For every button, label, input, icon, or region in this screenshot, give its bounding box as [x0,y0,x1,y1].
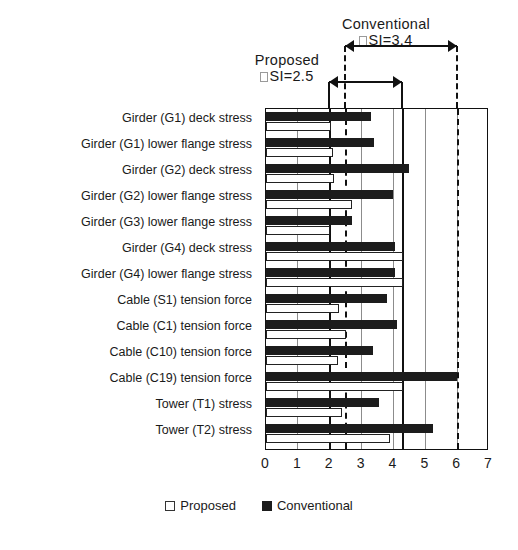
bar-row [266,111,487,137]
bar-proposed [266,148,333,157]
bar-proposed [266,330,346,339]
span-arrow-conventional-line [345,45,457,47]
plot-area [265,108,488,450]
arrow-head-left-icon [329,76,338,88]
x-axis-tick-label: 5 [414,455,434,471]
y-axis-label: Cable (C1) tension force [117,320,252,333]
bar-conventional [266,190,393,199]
annotation-conventional-title: Conventional [330,16,442,32]
bar-conventional [266,294,387,303]
bar-conventional [266,112,371,121]
bar-row [266,345,487,371]
x-axis-tick-label: 0 [255,455,275,471]
bar-conventional [266,164,409,173]
y-axis-label: Tower (T2) stress [155,424,252,437]
bar-row [266,267,487,293]
legend-label: Conventional [277,498,353,513]
annotation-proposed-title: Proposed [244,52,330,68]
y-axis-label: Girder (G4) deck stress [122,242,252,255]
y-axis-label: Girder (G4) lower flange stress [81,268,252,281]
y-axis-labels: Girder (G1) deck stress Girder (G1) lowe… [0,108,258,450]
x-axis-tick-label: 7 [478,455,498,471]
bar-proposed [266,356,338,365]
bar-conventional [266,346,373,355]
arrow-head-right-icon [448,40,457,52]
chart-legend: Proposed Conventional [0,498,518,513]
bar-proposed [266,122,331,131]
legend-label: Proposed [180,498,236,513]
bar-conventional [266,216,352,225]
span-arrow-conventional [345,40,457,52]
span-arrow-proposed [329,76,402,88]
x-axis-tick-label: 4 [382,455,402,471]
bar-row [266,371,487,397]
annotation-proposed-value-text: SI=2.5 [269,68,313,84]
bar-row [266,423,487,449]
bar-proposed [266,434,390,443]
bar-proposed [266,382,403,391]
bar-row [266,215,487,241]
y-axis-label: Cable (C19) tension force [110,372,252,385]
span-arrow-proposed-line [329,81,402,83]
bar-proposed [266,408,342,417]
bar-rows [266,109,487,449]
bar-row [266,397,487,423]
missing-glyph-icon [260,72,268,82]
legend-swatch-open-square-icon [165,501,175,511]
y-axis-label: Girder (G1) lower flange stress [81,138,252,151]
annotation-proposed-value: SI=2.5 [244,68,330,84]
y-axis-label: Girder (G2) lower flange stress [81,190,252,203]
bar-conventional [266,372,457,381]
bar-row [266,137,487,163]
legend-swatch-filled-square-icon [262,501,272,511]
x-axis-tick-label: 6 [446,455,466,471]
y-axis-label: Cable (S1) tension force [117,294,252,307]
bar-conventional [266,320,397,329]
refline-stem-conventional-upper [456,46,458,108]
bar-proposed [266,278,403,287]
legend-item-conventional: Conventional [262,498,353,513]
annotation-proposed: Proposed SI=2.5 [244,52,330,84]
x-axis-tick-label: 3 [351,455,371,471]
x-axis-tick-label: 2 [319,455,339,471]
bar-row [266,241,487,267]
bar-conventional [266,242,395,251]
bar-conventional [266,398,379,407]
x-axis-ticks: 01234567 [0,455,518,475]
y-axis-label: Girder (G1) deck stress [122,112,252,125]
bar-row [266,163,487,189]
bar-conventional [266,138,374,147]
bar-proposed [266,200,352,209]
y-axis-label: Girder (G2) deck stress [122,164,252,177]
y-axis-label: Girder (G3) lower flange stress [81,216,252,229]
arrow-head-right-icon [393,76,402,88]
bar-conventional [266,268,395,277]
bar-row [266,189,487,215]
bar-chart: Proposed SI=2.5 Conventional SI=3.4 Gird… [0,0,518,550]
legend-item-proposed: Proposed [165,498,236,513]
bar-proposed [266,226,330,235]
bar-proposed [266,174,334,183]
bar-proposed [266,304,339,313]
y-axis-label: Tower (T1) stress [155,398,252,411]
bar-row [266,293,487,319]
bar-row [266,319,487,345]
x-axis-tick-label: 1 [287,455,307,471]
bar-conventional [266,424,433,433]
bar-proposed [266,252,403,261]
arrow-head-left-icon [345,40,354,52]
y-axis-label: Cable (C10) tension force [110,346,252,359]
